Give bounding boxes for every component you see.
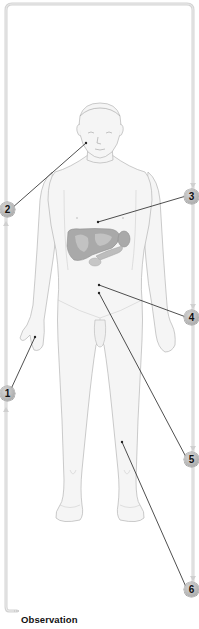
- target-dot-lower-abdomen: [98, 292, 100, 294]
- step-badge-3: 3: [184, 189, 199, 204]
- step-badge-2: 2: [0, 202, 15, 217]
- leader-line-3: [98, 196, 186, 222]
- leader-line-4: [99, 285, 186, 317]
- leader-line-1: [11, 337, 35, 389]
- target-dot-face: [85, 142, 87, 144]
- leader-line-2: [12, 143, 86, 208]
- target-dot-chest: [97, 221, 99, 223]
- leader-line-5: [99, 293, 186, 457]
- leader-line-6: [122, 442, 186, 587]
- step-badge-6: 6: [184, 582, 199, 597]
- anatomy-observation-diagram: 1 2 3 4 5 6 Observation: [0, 0, 199, 629]
- target-dot-upper-abdomen: [98, 284, 100, 286]
- step-badge-1: 1: [0, 386, 15, 401]
- step-badge-4: 4: [184, 310, 199, 325]
- leader-lines: [0, 0, 199, 629]
- step-badge-5: 5: [184, 452, 199, 467]
- diagram-caption: Observation: [21, 614, 78, 625]
- target-dot-leg: [121, 441, 123, 443]
- target-dot-hand: [34, 336, 36, 338]
